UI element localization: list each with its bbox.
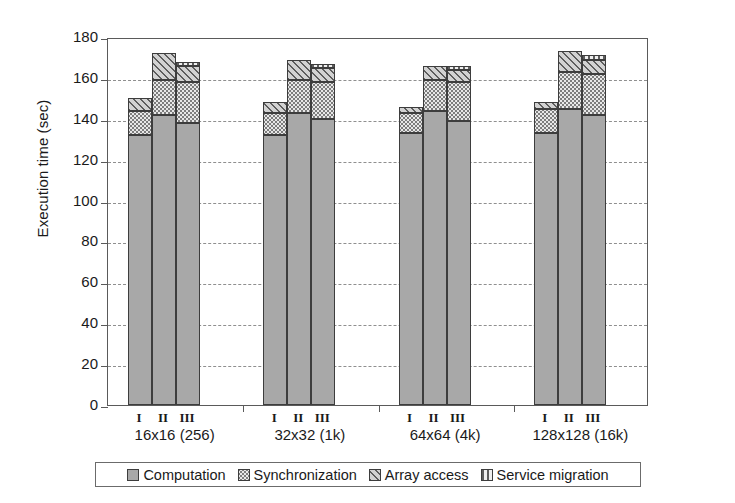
bar-stack: [399, 107, 423, 405]
legend-item: Synchronization: [238, 467, 357, 483]
bar-stack: [582, 55, 606, 405]
y-axis-tick-label: 60: [40, 273, 98, 290]
x-axis-subtick-label: II: [557, 410, 581, 426]
legend-item: Array access: [369, 467, 469, 483]
bar-stack: [263, 102, 287, 405]
bar-segment-computation: [534, 133, 558, 405]
legend-swatch-computation: [127, 469, 139, 481]
bar-segment-synchronization: [152, 80, 176, 115]
bar-segment-array-access: [152, 53, 176, 80]
y-axis-tick: [101, 284, 108, 285]
bar-stack: [558, 51, 582, 405]
bar-segment-synchronization: [423, 80, 447, 111]
y-axis-tick-label: 120: [40, 151, 98, 168]
x-axis-subtick-label: I: [262, 410, 286, 426]
bar-segment-array-access: [176, 66, 200, 82]
legend-label: Service migration: [497, 467, 609, 483]
bar-segment-synchronization: [287, 80, 311, 113]
bar-stack: [128, 98, 152, 405]
bar-segment-computation: [128, 135, 152, 405]
x-axis-subtick-label: II: [151, 410, 175, 426]
bar-segment-array-access: [311, 68, 335, 82]
bar-segment-computation: [558, 109, 582, 405]
bar-segment-synchronization: [311, 82, 335, 119]
x-axis-subtick-label: III: [175, 410, 199, 426]
bar-segment-array-access: [287, 60, 311, 80]
x-axis-subtick-label: I: [127, 410, 151, 426]
y-axis-tick: [101, 39, 108, 40]
chart-figure: Execution time (sec) 0204060801001201401…: [0, 0, 735, 503]
x-axis-subtick-label: II: [422, 410, 446, 426]
bar-segment-computation: [582, 115, 606, 405]
bar-segment-synchronization: [263, 113, 287, 135]
y-axis-tick-label: 160: [40, 69, 98, 86]
y-axis-tick: [101, 162, 108, 163]
x-axis-group-separator: [379, 405, 380, 412]
y-axis-tick: [101, 121, 108, 122]
bar-segment-synchronization: [447, 82, 471, 121]
legend-swatch-array-access: [369, 469, 381, 481]
bar-stack: [311, 64, 335, 405]
legend-item: Computation: [127, 467, 225, 483]
bar-stack: [423, 66, 447, 405]
bar-segment-synchronization: [176, 82, 200, 123]
y-axis-tick: [101, 325, 108, 326]
bar-segment-array-access: [582, 60, 606, 74]
bar-segment-array-access: [558, 51, 582, 71]
y-axis-tick-label: 40: [40, 314, 98, 331]
y-axis-tick-label: 140: [40, 110, 98, 127]
bar-segment-service-migration: [311, 64, 335, 68]
bar-segment-service-migration: [447, 66, 471, 70]
bar-segment-array-access: [423, 66, 447, 80]
bar-segment-computation: [263, 135, 287, 405]
bar-stack: [287, 60, 311, 406]
x-axis-subtick-label: I: [398, 410, 422, 426]
x-axis-subtick-label: I: [533, 410, 557, 426]
y-axis-tick-label: 0: [40, 396, 98, 413]
bar-segment-computation: [152, 115, 176, 405]
legend-item: Service migration: [481, 467, 609, 483]
legend-label: Array access: [385, 467, 469, 483]
bar-segment-array-access: [128, 98, 152, 110]
y-axis-tick-label: 20: [40, 355, 98, 372]
x-axis-group-label: 128x128 (16k): [513, 426, 648, 443]
bar-stack: [152, 53, 176, 405]
x-axis-group-label: 64x64 (4k): [378, 426, 513, 443]
chart-legend: ComputationSynchronizationArray accessSe…: [95, 462, 641, 487]
bar-segment-service-migration: [176, 62, 200, 66]
x-axis-subtick-label: II: [286, 410, 310, 426]
bar-segment-synchronization: [558, 72, 582, 109]
plot-area: [107, 38, 648, 406]
bar-segment-computation: [176, 123, 200, 405]
bar-segment-synchronization: [128, 111, 152, 136]
legend-label: Synchronization: [254, 467, 357, 483]
bar-segment-array-access: [399, 107, 423, 113]
x-axis-subtick-label: III: [446, 410, 470, 426]
bar-segment-computation: [311, 119, 335, 405]
y-axis-tick: [101, 407, 108, 408]
x-axis-group-separator: [514, 405, 515, 412]
bar-segment-array-access: [447, 70, 471, 82]
plot-inner: [108, 39, 647, 405]
bar-segment-service-migration: [582, 55, 606, 59]
y-axis-tick: [101, 80, 108, 81]
bar-stack: [447, 66, 471, 405]
y-axis-tick: [101, 203, 108, 204]
y-axis-tick-label: 180: [40, 28, 98, 45]
x-axis-subtick-label: III: [310, 410, 334, 426]
x-axis-group-label: 16x16 (256): [107, 426, 242, 443]
bar-segment-synchronization: [399, 113, 423, 133]
legend-swatch-synchronization: [238, 469, 250, 481]
legend-label: Computation: [143, 467, 225, 483]
bar-segment-computation: [423, 111, 447, 405]
x-axis-group-separator: [243, 405, 244, 412]
bar-segment-computation: [399, 133, 423, 405]
y-axis-tick: [101, 243, 108, 244]
bar-stack: [534, 102, 558, 405]
bar-segment-computation: [287, 113, 311, 405]
bar-segment-array-access: [263, 102, 287, 112]
bar-segment-synchronization: [534, 109, 558, 134]
y-axis-tick: [101, 366, 108, 367]
y-axis-tick-label: 100: [40, 192, 98, 209]
bar-segment-computation: [447, 121, 471, 405]
